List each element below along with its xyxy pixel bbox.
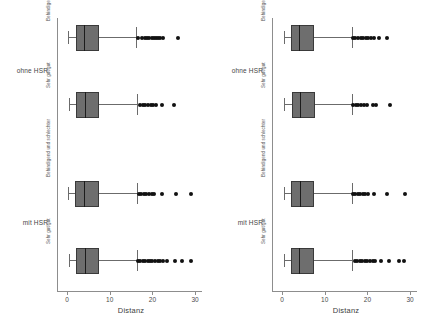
whisker-cap-low — [69, 98, 70, 111]
group-label-mit-hsr: mit HSR — [2, 219, 48, 226]
x-axis-tick-label: 0 — [280, 296, 284, 303]
whisker-cap-low — [68, 31, 69, 44]
outlier-point — [172, 103, 176, 107]
boxplot-row — [215, 92, 429, 118]
outlier-point — [397, 259, 401, 263]
median-line — [85, 92, 86, 118]
category-label: Behindigend und schlechter — [46, 0, 51, 21]
boxplot-row — [215, 248, 429, 274]
x-axis-tick-label: 0 — [65, 296, 69, 303]
outlier-point — [189, 259, 193, 263]
outlier-point — [387, 259, 391, 263]
median-line — [300, 181, 301, 207]
outlier-point — [379, 259, 383, 263]
outlier-point — [161, 259, 165, 263]
whisker-cap-low — [284, 254, 285, 267]
outlier-point — [385, 36, 389, 40]
box-iqr — [291, 25, 314, 51]
box-iqr — [75, 181, 99, 207]
whisker-high — [314, 260, 351, 261]
outlier-point — [152, 192, 156, 196]
x-axis-tick — [67, 292, 68, 295]
outlier-point — [385, 192, 389, 196]
boxplot-row — [0, 248, 214, 274]
box-iqr — [76, 248, 99, 274]
x-axis-tick-label: 30 — [191, 296, 198, 303]
whisker-high — [99, 37, 137, 38]
box-iqr — [291, 248, 314, 274]
whisker-cap-low — [284, 187, 285, 200]
x-axis-title: Distanz — [118, 306, 144, 315]
x-axis-tick-label: 10 — [106, 296, 113, 303]
outlier-point — [160, 103, 164, 107]
median-line — [299, 248, 300, 274]
x-axis-tick — [110, 292, 111, 295]
group-label-ohne-hsr: ohne HSR — [217, 67, 263, 74]
chart-panel-left: 0102030Distanzohne HSRBehindigend und sc… — [0, 0, 214, 323]
outlier-point — [402, 259, 406, 263]
outlier-point — [372, 36, 376, 40]
median-line — [84, 181, 85, 207]
outlier-point — [154, 103, 158, 107]
x-axis-tick-label: 20 — [364, 296, 371, 303]
x-axis-tick-label: 20 — [149, 296, 156, 303]
outlier-point — [372, 192, 376, 196]
whisker-high — [315, 104, 352, 105]
outlier-point — [388, 103, 392, 107]
whisker-low — [68, 37, 75, 38]
boxplot-row — [0, 92, 214, 118]
category-label: Sehr gut/gut — [46, 62, 51, 88]
category-label: Sehr gut/gut — [261, 62, 266, 88]
whisker-low — [284, 37, 291, 38]
x-axis-line — [57, 291, 202, 292]
x-axis-tick-label: 10 — [321, 296, 328, 303]
outlier-point — [365, 103, 369, 107]
x-axis-tick — [325, 292, 326, 295]
whisker-low — [69, 260, 76, 261]
outlier-point — [176, 36, 180, 40]
whisker-high — [99, 104, 137, 105]
outlier-point — [173, 259, 177, 263]
x-axis-tick — [282, 292, 283, 295]
median-line — [84, 25, 85, 51]
whisker-low — [69, 104, 76, 105]
x-axis-tick — [152, 292, 153, 295]
outlier-point — [373, 259, 377, 263]
outlier-point — [377, 36, 381, 40]
group-label-ohne-hsr: ohne HSR — [2, 67, 48, 74]
box-iqr — [292, 92, 315, 118]
category-label: Behindigend und schlechter — [46, 119, 51, 177]
x-axis-line — [272, 291, 417, 292]
outlier-point — [174, 192, 178, 196]
box-iqr — [76, 92, 100, 118]
boxplot-row — [0, 25, 214, 51]
whisker-cap-low — [68, 187, 69, 200]
median-line — [299, 25, 300, 51]
whisker-cap-low — [284, 31, 285, 44]
box-iqr — [291, 181, 315, 207]
whisker-low — [68, 193, 75, 194]
whisker-high — [314, 193, 351, 194]
x-axis-tick-label: 30 — [406, 296, 413, 303]
outlier-point — [189, 192, 193, 196]
category-label: Sehr gut/gut — [261, 218, 266, 244]
median-line — [300, 92, 301, 118]
whisker-low — [284, 193, 291, 194]
boxplot-row — [215, 181, 429, 207]
whisker-high — [314, 37, 352, 38]
category-label: Behindigend und schlechter — [261, 119, 266, 177]
whisker-cap-low — [284, 98, 285, 111]
category-label: Behindigend und schlechter — [261, 0, 266, 21]
category-label: Sehr gut/gut — [46, 218, 51, 244]
x-axis-tick — [410, 292, 411, 295]
whisker-high — [99, 193, 137, 194]
outlier-point — [180, 259, 184, 263]
outlier-point — [161, 36, 165, 40]
outlier-point — [165, 259, 169, 263]
x-axis-tick — [195, 292, 196, 295]
outlier-point — [366, 192, 370, 196]
whisker-cap-low — [69, 254, 70, 267]
group-label-mit-hsr: mit HSR — [217, 219, 263, 226]
outlier-point — [160, 192, 164, 196]
x-axis-title: Distanz — [333, 306, 359, 315]
